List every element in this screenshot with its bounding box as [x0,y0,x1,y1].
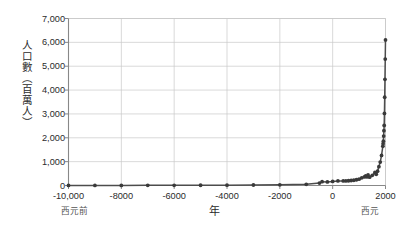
y-tick-label: 1,000 [25,157,65,167]
y-tick-label: 4,000 [25,85,65,95]
x-tick-label: -10,000 [53,191,84,201]
era-label-ad: 西元 [361,204,379,216]
x-tick-label: -6000 [162,191,186,201]
y-tick-label: 3,000 [25,109,65,119]
x-axis-title: 年 [209,202,220,218]
x-tick-label: -4000 [215,191,239,201]
y-tick-label: 5,000 [25,61,65,71]
y-tick-label: 6,000 [25,37,65,47]
x-tick-label: 2000 [375,191,395,201]
y-tick-label: 2,000 [25,133,65,143]
x-tick-label: -8000 [110,191,134,201]
y-tick-label: 0 [25,181,65,191]
y-tick-label: 7,000 [25,14,65,24]
x-tick-label: 0 [330,191,335,201]
era-label-bc: 西元前 [61,204,88,216]
x-tick-label: -2000 [268,191,292,201]
